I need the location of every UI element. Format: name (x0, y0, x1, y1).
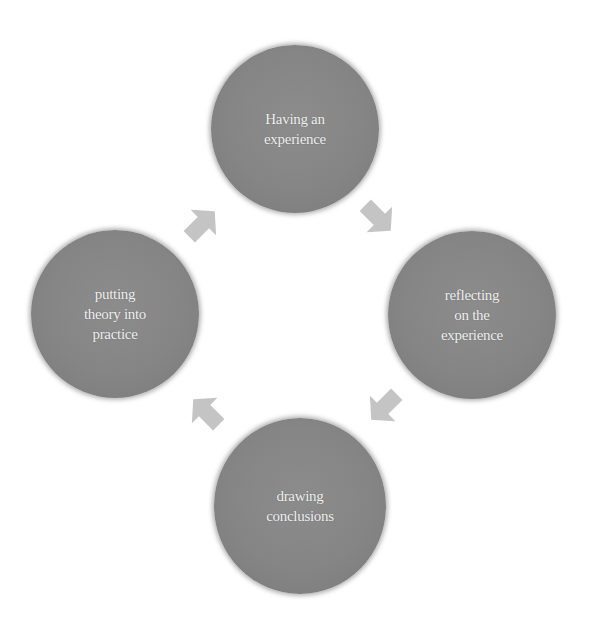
cycle-diagram: Having an experience reflecting on the e… (0, 0, 592, 617)
arrow-up-left-icon (184, 390, 228, 434)
node-label: drawing conclusions (245, 486, 355, 526)
node-drawing-conclusions: drawing conclusions (214, 418, 386, 594)
arrow-down-left-icon (362, 385, 406, 429)
node-label: Having an experience (240, 109, 350, 149)
node-label-line: putting (60, 284, 170, 304)
node-label-line: Having an (240, 109, 350, 129)
node-having-an-experience: Having an experience (211, 45, 379, 213)
node-label-line: on the (417, 305, 527, 325)
node-reflecting-on-the-experience: reflecting on the experience (388, 231, 556, 399)
node-label-line: reflecting (417, 285, 527, 305)
node-label-line: theory into (60, 304, 170, 324)
node-label: reflecting on the experience (417, 285, 527, 345)
node-label-line: experience (417, 325, 527, 345)
arrow-down-right-icon (356, 196, 400, 240)
arrow-up-right-icon (180, 202, 224, 246)
node-label-line: conclusions (245, 506, 355, 526)
node-putting-theory-into-practice: putting theory into practice (31, 230, 199, 398)
node-label: putting theory into practice (60, 284, 170, 344)
node-label-line: drawing (245, 486, 355, 506)
node-label-line: practice (60, 324, 170, 344)
node-label-line: experience (240, 129, 350, 149)
